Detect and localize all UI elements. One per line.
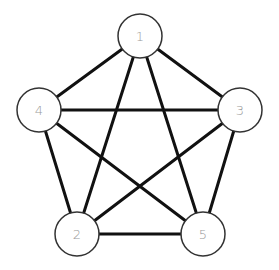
node-label: 1 bbox=[136, 29, 144, 44]
node-label: 5 bbox=[199, 227, 207, 242]
node-label: 2 bbox=[73, 227, 81, 242]
edge-1-5 bbox=[140, 36, 203, 234]
edge-1-2 bbox=[77, 36, 140, 234]
node-2: 2 bbox=[55, 212, 99, 256]
node-label: 4 bbox=[35, 103, 43, 118]
node-label: 3 bbox=[236, 103, 244, 118]
node-5: 5 bbox=[181, 212, 225, 256]
nodes-layer: 12345 bbox=[17, 14, 262, 256]
node-4: 4 bbox=[17, 88, 61, 132]
edge-4-5 bbox=[39, 110, 203, 234]
graph-canvas: 12345 bbox=[0, 0, 279, 270]
node-1: 1 bbox=[118, 14, 162, 58]
edges-layer bbox=[39, 36, 240, 234]
node-3: 3 bbox=[218, 88, 262, 132]
